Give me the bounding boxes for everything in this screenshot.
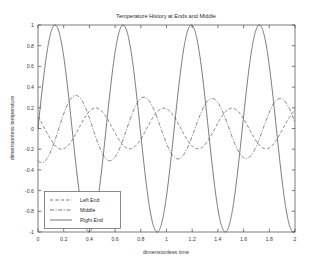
chart-legend[interactable]: Left End Middle Right End <box>45 192 121 229</box>
x-axis-label: dimensionless time <box>143 249 189 255</box>
x-tick-label: 1 <box>165 236 168 242</box>
x-tick-label: 1.8 <box>266 236 273 242</box>
y-tick-label: -1 <box>29 229 34 235</box>
x-tick-label: 0.2 <box>60 236 67 242</box>
y-axis-label: dimensionless temperature <box>9 96 15 161</box>
x-tick-label: 1.2 <box>189 236 196 242</box>
y-tick-label: 0.6 <box>27 63 34 69</box>
x-tick-label: 1.6 <box>240 236 247 242</box>
legend-label-left-end: Left End <box>80 197 99 203</box>
y-tick-label: -0.4 <box>25 167 34 173</box>
y-tick-label: -0.2 <box>25 146 34 152</box>
x-tick-label: 0.6 <box>111 236 118 242</box>
chart-title: Temperature History at Ends and Middle <box>116 13 216 19</box>
y-tick-label: 0.8 <box>27 43 34 49</box>
legend-label-right-end: Right End <box>80 217 103 223</box>
legend-label-middle: Middle <box>80 207 95 213</box>
y-tick-label: 0.4 <box>27 84 34 90</box>
x-tick-label: 0.8 <box>137 236 144 242</box>
chart-figure: Temperature History at Ends and Middle 0… <box>0 0 312 263</box>
x-tick-label: 2 <box>294 236 297 242</box>
y-tick-label: -0.6 <box>25 188 34 194</box>
x-tick-label: 0.4 <box>86 236 93 242</box>
x-tick-label: 0 <box>37 236 40 242</box>
x-tick-label: 1.4 <box>214 236 221 242</box>
plot-svg: Temperature History at Ends and Middle 0… <box>0 0 312 263</box>
y-tick-label: 1 <box>31 22 34 28</box>
y-tick-label: 0.2 <box>27 105 34 111</box>
y-tick-label: 0 <box>31 126 34 132</box>
y-tick-label: -0.8 <box>25 208 34 214</box>
